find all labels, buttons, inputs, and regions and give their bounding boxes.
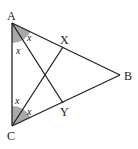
angle-label-A-upper: x — [26, 32, 32, 43]
angle-label-C-upper: x — [14, 95, 20, 106]
label-B: B — [124, 69, 132, 83]
label-A: A — [7, 9, 16, 23]
angle-label-C-lower: x — [26, 106, 32, 117]
triangle-diagram: A B C X Y x x x x — [0, 0, 138, 149]
label-X: X — [60, 33, 69, 47]
angle-label-A-lower: x — [15, 45, 21, 56]
label-C: C — [7, 129, 15, 143]
label-Y: Y — [60, 105, 69, 119]
